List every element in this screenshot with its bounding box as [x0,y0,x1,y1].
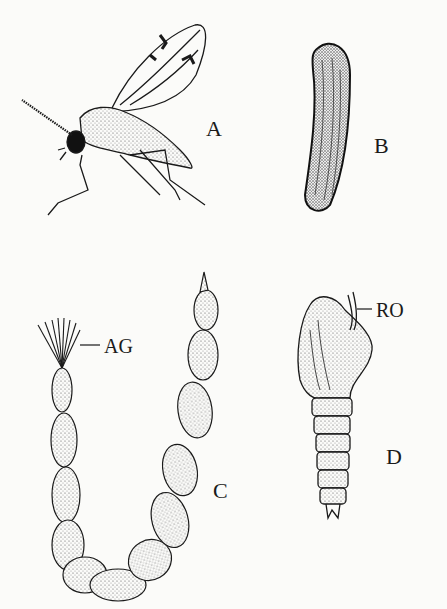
annotation-ag: AG [104,336,133,356]
panel-label-a: A [206,118,222,140]
egg-drawing [305,44,350,211]
pupa-drawing [298,292,372,518]
panel-label-c: C [213,480,228,502]
larva-drawing [38,272,218,601]
panel-label-d: D [386,446,402,468]
annotation-ro: RO [376,300,404,320]
figure: A B C D AG RO [0,0,447,609]
panel-label-b: B [374,135,389,157]
adult-fly-drawing [22,25,206,215]
